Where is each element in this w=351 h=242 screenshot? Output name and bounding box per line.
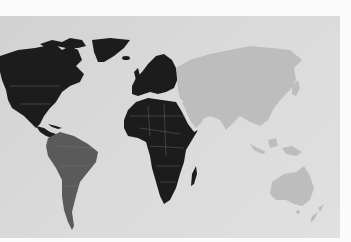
southeast-asia-islands-region — [250, 138, 302, 156]
world-map-graphic — [0, 16, 340, 238]
photo-frame — [0, 0, 351, 242]
new-zealand-region — [310, 204, 324, 222]
madagascar-region — [191, 166, 197, 186]
tasmania-region — [296, 210, 300, 214]
africa-region — [124, 98, 198, 204]
arctic-islands-region — [40, 38, 86, 48]
australia-region — [270, 166, 314, 206]
world-map — [0, 16, 340, 238]
iceland-region — [122, 56, 130, 60]
caribbean-region — [48, 124, 62, 129]
